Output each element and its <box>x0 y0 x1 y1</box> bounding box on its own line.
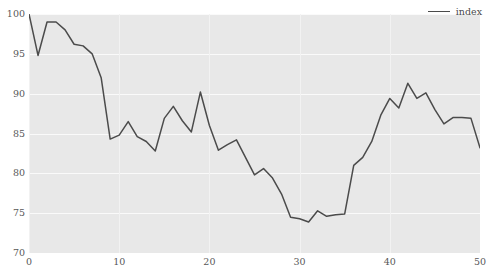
x-tick-label: 10 <box>104 257 134 267</box>
legend: index <box>424 5 486 19</box>
y-tick-label: 80 <box>0 168 25 178</box>
x-tick-label: 20 <box>194 257 224 267</box>
y-tick-label: 85 <box>0 129 25 139</box>
x-tick-label: 40 <box>375 257 405 267</box>
legend-item-label: index <box>456 7 482 17</box>
x-tick-label: 50 <box>465 257 492 267</box>
y-tick-label: 75 <box>0 208 25 218</box>
y-tick-label: 100 <box>0 9 25 19</box>
legend-line-swatch <box>428 11 450 12</box>
x-tick-label: 30 <box>285 257 315 267</box>
line-series-index <box>29 14 480 253</box>
x-tick-label: 0 <box>14 257 44 267</box>
y-tick-label: 90 <box>0 89 25 99</box>
y-tick-label: 95 <box>0 49 25 59</box>
plot-area <box>29 14 480 253</box>
chart-figure: 707580859095100 01020304050 index <box>0 0 492 276</box>
series-polyline <box>29 14 480 222</box>
